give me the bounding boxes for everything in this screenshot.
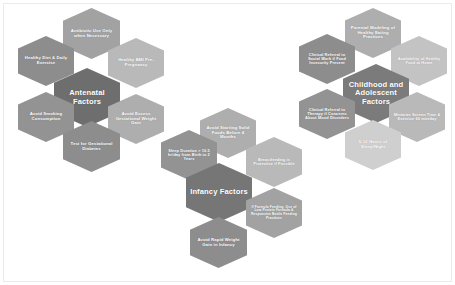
hex-label: Healthy BMI Pre-Pregnancy bbox=[108, 58, 164, 67]
hex-label: Minimize Screen Time & Exercise 60 min/d… bbox=[389, 113, 445, 121]
hex-label: Avoid Rapid Weight Gain in Infancy bbox=[190, 238, 247, 247]
hex-label: Availability of Healthy Food at Home bbox=[391, 57, 447, 65]
hex-label: Clinical Referral to Therapy if Concerns… bbox=[299, 108, 355, 121]
hex-label: Avoid Starting Solid Foods Before 4 Mont… bbox=[200, 126, 256, 140]
hex-label: Avoid Excess Gestational Weight Gain bbox=[108, 112, 164, 126]
hex-label: Avoid Smoking Consumption bbox=[18, 112, 74, 121]
hex-core-label: Infancy Factors bbox=[186, 188, 252, 196]
hex-label: If Formula Feeding, Use of Low Protein F… bbox=[246, 206, 302, 221]
hex-label: Sleep Duration > 10.5 hr/day from Birth … bbox=[161, 149, 217, 162]
hex-label: Breastfeeding is Protective if Possible bbox=[246, 158, 302, 166]
hex-infancy-rapid-weight-gain[interactable]: Avoid Rapid Weight Gain in Infancy bbox=[190, 217, 247, 268]
hex-label: Parental Modeling of Healthy Eating Prac… bbox=[345, 26, 401, 40]
diagram-canvas: Antibiotic Use Only when Necessary Healt… bbox=[0, 0, 455, 285]
hex-label: Clinical Referral to Social Work if Food… bbox=[299, 53, 355, 66]
hex-label: Test for Gestational Diabetes bbox=[63, 142, 120, 151]
hex-infancy-formula-feeding[interactable]: If Formula Feeding, Use of Low Protein F… bbox=[246, 188, 302, 238]
hex-label: Antibiotic Use Only when Necessary bbox=[63, 29, 120, 38]
hex-label: Healthy Diet & Daily Exercise bbox=[18, 56, 74, 65]
hex-label: 9-12 Hours of Sleep/Night bbox=[345, 140, 401, 149]
